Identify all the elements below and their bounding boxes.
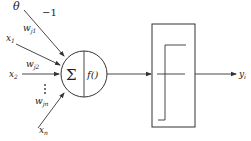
x1-arrow	[16, 44, 60, 65]
x1-label: x1	[6, 33, 15, 44]
w-jn-label: wjn	[35, 96, 49, 108]
output-label: yi	[238, 69, 246, 80]
ellipsis-dots	[44, 84, 46, 94]
step-function-box	[152, 24, 195, 127]
theta-label: θ	[13, 0, 20, 13]
x2-label: x2	[9, 69, 18, 80]
activation-label: f()	[86, 69, 99, 80]
xn-label: xn	[39, 125, 48, 136]
w-j2-label: wj2	[26, 59, 40, 71]
step-curve	[158, 45, 186, 120]
neuron-diagram: θ −1 x1 wj1 wj2 x2 wjn xn Σ f() yi	[0, 0, 251, 141]
sigma-symbol: Σ	[66, 66, 77, 84]
bias-weight-label: −1	[42, 7, 57, 18]
w-j1-label: wj1	[23, 23, 36, 35]
